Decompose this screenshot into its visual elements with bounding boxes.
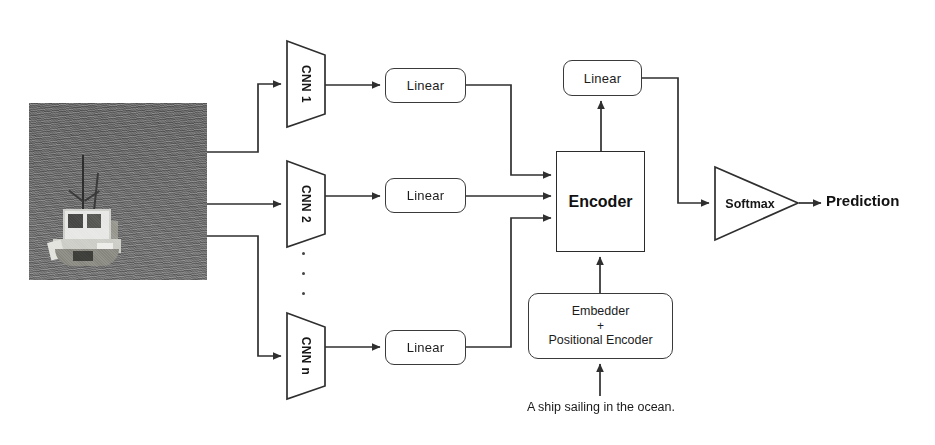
cnn-block-2-label: CNN 2 [299,185,313,223]
prediction-output-label: Prediction [826,192,899,209]
softmax-block: Softmax [714,166,799,241]
ellipsis-dot-2 [302,272,305,275]
ellipsis-dot-1 [302,252,305,255]
ellipsis-dot-3 [302,292,305,295]
positional-encoder-label: Positional Encoder [548,333,652,348]
wire-image-to-cnn1 [207,84,281,152]
photo-grain-overlay [29,103,207,280]
cnn-block-n: CNN n [286,312,326,400]
cnn-block-n-label: CNN n [299,337,313,376]
wire-linear1-to-encoder [466,85,551,175]
text-input-caption: A ship sailing in the ocean. [512,400,690,416]
embedder-plus-sign: + [597,320,604,332]
cnn-block-2: CNN 2 [286,160,326,248]
top-linear-box: Linear [563,60,642,96]
diagram-canvas: CNN 1 CNN 2 CNN n Linear Linear Linear E… [0,0,935,445]
cnn-block-1-label: CNN 1 [299,65,313,103]
encoder-block: Encoder [556,151,645,252]
wire-top-linear-to-softmax [642,78,709,203]
linear-box-1: Linear [385,68,466,103]
wire-image-to-cnnn [207,236,281,356]
embedder-label: Embedder [572,304,630,319]
softmax-label: Softmax [720,166,780,241]
linear-box-n: Linear [385,330,466,365]
cnn-block-1: CNN 1 [286,40,326,128]
input-image-thumbnail [29,103,207,280]
linear-box-2: Linear [385,178,466,213]
embedder-positional-encoder-block: Embedder + Positional Encoder [528,293,673,359]
